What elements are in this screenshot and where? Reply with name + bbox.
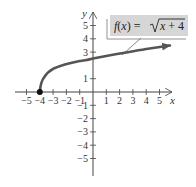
x-tick-label: 1: [104, 95, 109, 106]
x-tick-label: −4: [34, 95, 45, 106]
x-tick-label: 5: [157, 95, 162, 106]
x-tick-label: 4: [144, 95, 149, 106]
radicand: x + 4: [159, 19, 184, 33]
function-graph: −5 −4 −3 −2 −1 1 2 3 4 5 5 4 3 1 −1 −2 −…: [0, 0, 196, 187]
x-axis-label: x: [169, 94, 175, 106]
y-tick-label: −1: [77, 100, 88, 111]
y-tick-label: 3: [83, 47, 88, 58]
y-tick-label: −4: [77, 140, 88, 151]
y-tick-label: 1: [83, 73, 88, 84]
x-tick-label: −3: [48, 95, 59, 106]
y-tick-label: −2: [77, 113, 88, 124]
x-tick-label: 2: [117, 95, 122, 106]
x-tick-label: 3: [130, 95, 135, 106]
function-curve: [40, 46, 170, 93]
y-axis-label: y: [81, 7, 87, 19]
y-tick-label: 5: [83, 20, 88, 31]
x-tick-label: −2: [61, 95, 72, 106]
x-tick-label: −5: [21, 95, 32, 106]
y-tick-label: 4: [83, 33, 88, 44]
function-label-box: f(x) = x + 4: [107, 15, 188, 39]
function-label: f(x) =: [114, 19, 141, 33]
y-tick-label: −3: [77, 126, 88, 137]
start-point-marker: [37, 89, 43, 95]
y-tick-label: −5: [77, 153, 88, 164]
